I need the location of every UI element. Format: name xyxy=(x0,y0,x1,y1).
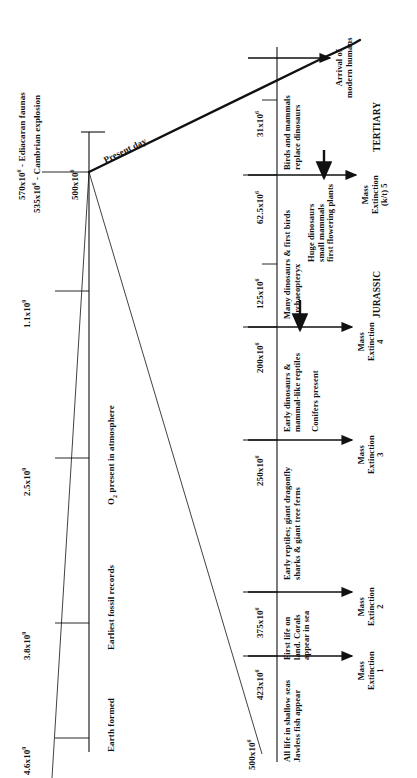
mass-extinction-5: Mass Extinction (k/t) 5 xyxy=(361,175,390,214)
main-tick-value-500e6: 500x106 xyxy=(70,169,80,200)
biota-shallow-seas: All life in shallow seas Jawless fish ap… xyxy=(283,680,302,762)
biota-first-land: First life on land. Corals appear in sea xyxy=(283,611,312,660)
detail-tick-value-62-5e6: 62.5x106 xyxy=(255,191,265,224)
main-tick-value-570e6: 570x106 - Ediacaran faunas xyxy=(17,92,27,200)
diagram-vectors xyxy=(0,0,417,778)
main-event-label-fossil-records: Earliest fossil records xyxy=(106,565,116,650)
main-tick-value-3-8e9: 3.8x109 xyxy=(22,631,32,660)
biota-early-reptiles: Early reptiles; giant dragonfly sharks &… xyxy=(283,467,302,580)
detail-tick-value-200e6: 200x106 xyxy=(255,342,265,373)
biota-conifers: Conifers present xyxy=(311,370,321,432)
biota-many-dinosaurs: Many dinosaurs & first birds Archaeopter… xyxy=(283,210,302,319)
detail-tick-value-125e6: 125x106 xyxy=(255,278,265,309)
timeline-diagram: Earth formed Earliest fossil records O2 … xyxy=(0,0,417,778)
mass-extinction-2: Mass Extinction 2 xyxy=(357,587,386,626)
detail-axis-start-value: 500x106 xyxy=(247,739,257,770)
detail-tick-value-31e6: 31x106 xyxy=(255,111,265,137)
main-tick-value-2-5e9: 2.5x109 xyxy=(22,467,32,496)
main-tick-value-535e6: 535x106 - Cambrian explosion xyxy=(32,95,42,213)
detail-tick-value-423e6: 423x106 xyxy=(255,669,265,700)
period-tertiary: TERTIARY xyxy=(372,102,383,152)
main-event-label-earth-formed: Earth formed xyxy=(106,698,116,752)
mass-extinction-3: Mass Extinction 3 xyxy=(357,435,386,474)
period-jurassic: JURASSIC xyxy=(372,271,383,318)
main-event-label-oxygen: O2 present in atmosphere xyxy=(106,405,116,505)
main-tick-value-1-1e9: 1.1x109 xyxy=(22,299,32,328)
detail-tick-value-250e6: 250x106 xyxy=(255,455,265,486)
biota-early-dinosaurs: Early dinosaurs & mammal-like reptiles xyxy=(283,353,302,432)
zoom-wedge xyxy=(52,172,262,778)
main-axis-group xyxy=(42,132,105,752)
mass-extinction-4: Mass Extinction 4 xyxy=(357,322,386,361)
detail-axis-group xyxy=(243,47,277,762)
arrival-modern-humans: Arrival of modern humans xyxy=(335,37,354,98)
main-tick-value-4-6e9: 4.6x109 xyxy=(22,746,32,775)
detail-tick-value-375e6: 375x106 xyxy=(255,607,265,638)
biota-huge-dinosaurs: Huge dinosaurs small mammals first flowe… xyxy=(307,184,336,262)
biota-birds-mammals: Birds and mammals replace dinosaurs xyxy=(283,95,302,170)
mass-extinction-1: Mass Extinction 1 xyxy=(357,651,386,690)
